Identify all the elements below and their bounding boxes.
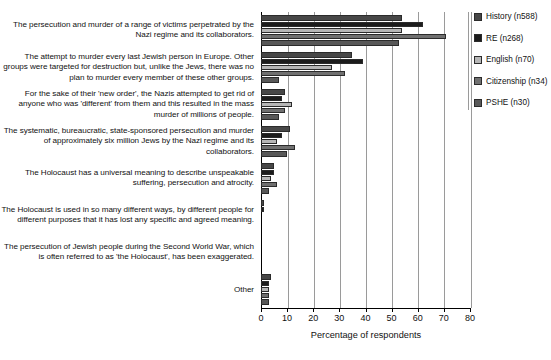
bar	[261, 200, 264, 205]
x-tick-label-40: 40	[360, 313, 370, 323]
bar	[261, 114, 279, 119]
x-tick-10	[287, 308, 288, 312]
bar	[261, 65, 332, 70]
category-label-6: The persecution of Jewish people during …	[0, 242, 254, 263]
x-tick-50	[392, 308, 393, 312]
legend-label: Citizenship (n34)	[486, 77, 547, 86]
x-tick-label-20: 20	[308, 313, 318, 323]
bar	[261, 22, 423, 27]
x-tick-label-0: 0	[258, 313, 263, 323]
x-tick-label-70: 70	[439, 313, 449, 323]
bar	[261, 145, 295, 150]
x-tick-30	[339, 308, 340, 312]
legend-swatch-icon	[474, 13, 482, 21]
category-label-7: Other	[0, 285, 254, 295]
legend-item-4[interactable]: PSHE (n30)	[474, 98, 530, 107]
legend-swatch-icon	[474, 99, 482, 107]
bar	[261, 188, 269, 193]
bar	[261, 52, 352, 57]
bar	[261, 15, 402, 20]
gridline-50	[392, 12, 393, 308]
legend-swatch-icon	[474, 77, 482, 85]
x-tick-80	[470, 308, 471, 312]
gridline-80	[471, 12, 472, 308]
bar	[261, 207, 264, 212]
bar	[261, 102, 292, 107]
bar	[261, 126, 290, 131]
legend-item-0[interactable]: History (n588)	[474, 12, 537, 21]
bar	[261, 77, 279, 82]
legend-label: RE (n268)	[486, 34, 523, 43]
bar	[261, 96, 282, 101]
bar	[261, 71, 345, 76]
bar	[261, 176, 271, 181]
bar	[261, 293, 269, 298]
x-tick-label-30: 30	[334, 313, 344, 323]
bar	[261, 182, 277, 187]
bar	[261, 139, 277, 144]
legend-item-1[interactable]: RE (n268)	[474, 34, 523, 43]
x-tick-60	[418, 308, 419, 312]
x-tick-label-50: 50	[387, 313, 397, 323]
category-label-3: The systematic, bureaucratic, state-spon…	[0, 126, 254, 157]
bar	[261, 108, 285, 113]
bar	[261, 28, 402, 33]
bar-chart: The persecution and murder of a range of…	[0, 0, 551, 360]
bar	[261, 287, 269, 292]
x-tick-label-80: 80	[465, 313, 475, 323]
bar	[261, 299, 269, 304]
legend-swatch-icon	[474, 56, 482, 64]
bar	[261, 34, 446, 39]
legend-label: English (n70)	[486, 55, 534, 64]
bar	[261, 163, 274, 168]
bar	[261, 59, 363, 64]
x-axis-title: Percentage of respondents	[261, 330, 471, 340]
bar	[261, 133, 282, 138]
x-tick-20	[313, 308, 314, 312]
bar	[261, 151, 287, 156]
legend-label: PSHE (n30)	[486, 98, 530, 107]
legend-item-3[interactable]: Citizenship (n34)	[474, 77, 547, 86]
category-label-5: The Holocaust is used in so many differe…	[0, 205, 254, 226]
x-tick-label-10: 10	[282, 313, 292, 323]
gridline-40	[366, 12, 367, 308]
x-tick-0	[261, 308, 262, 312]
category-label-0: The persecution and murder of a range of…	[0, 20, 254, 41]
bar	[261, 281, 269, 286]
legend-divider	[468, 12, 469, 110]
bar	[261, 40, 399, 45]
x-tick-70	[444, 308, 445, 312]
gridline-60	[418, 12, 419, 308]
legend-swatch-icon	[474, 34, 482, 42]
category-label-2: For the sake of their 'new order', the N…	[0, 89, 254, 120]
category-label-1: The attempt to murder every last Jewish …	[0, 52, 254, 83]
category-label-4: The Holocaust has a universal meaning to…	[0, 168, 254, 189]
gridline-70	[444, 12, 445, 308]
bar	[261, 274, 271, 279]
bar	[261, 170, 274, 175]
legend-item-2[interactable]: English (n70)	[474, 55, 534, 64]
legend-label: History (n588)	[486, 12, 537, 21]
x-tick-40	[366, 308, 367, 312]
bar	[261, 89, 285, 94]
x-tick-label-60: 60	[413, 313, 423, 323]
